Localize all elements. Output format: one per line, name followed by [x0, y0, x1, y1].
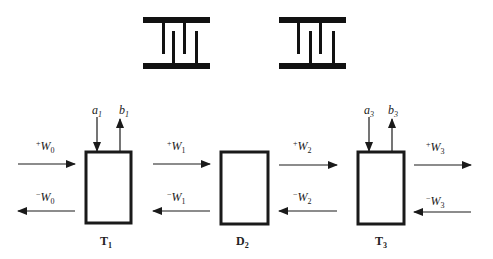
block-t3 — [358, 152, 404, 224]
wave-w3-forward-label: +W3 — [426, 140, 445, 156]
block-d2 — [221, 152, 268, 224]
block-label-t3: T3 — [375, 234, 387, 250]
wave-w0-forward-label: +W0 — [36, 139, 55, 155]
diagram-canvas: T1 D2 T3 a1 b1 a3 b3 +W0 −W0 +W1 −W1 +W2… — [0, 0, 493, 259]
wave-w0-backward-label: −W0 — [36, 190, 55, 206]
block-label-t1: T1 — [100, 234, 112, 250]
interdigital-symbol-left — [143, 17, 210, 69]
wave-w1-backward-label: −W1 — [167, 190, 186, 206]
block-label-d2: D2 — [236, 234, 249, 250]
wave-w3-backward-label: −W3 — [426, 194, 445, 210]
port-b3-label: b3 — [388, 103, 398, 119]
port-a1-label: a1 — [92, 103, 102, 119]
wave-w2-forward-label: +W2 — [293, 139, 312, 155]
wave-w1-forward-label: +W1 — [167, 139, 186, 155]
interdigital-symbol-right — [279, 17, 346, 69]
block-t1 — [86, 152, 131, 223]
wave-w2-backward-label: −W2 — [293, 190, 312, 206]
port-a3-label: a3 — [364, 103, 374, 119]
port-b1-label: b1 — [119, 103, 129, 119]
